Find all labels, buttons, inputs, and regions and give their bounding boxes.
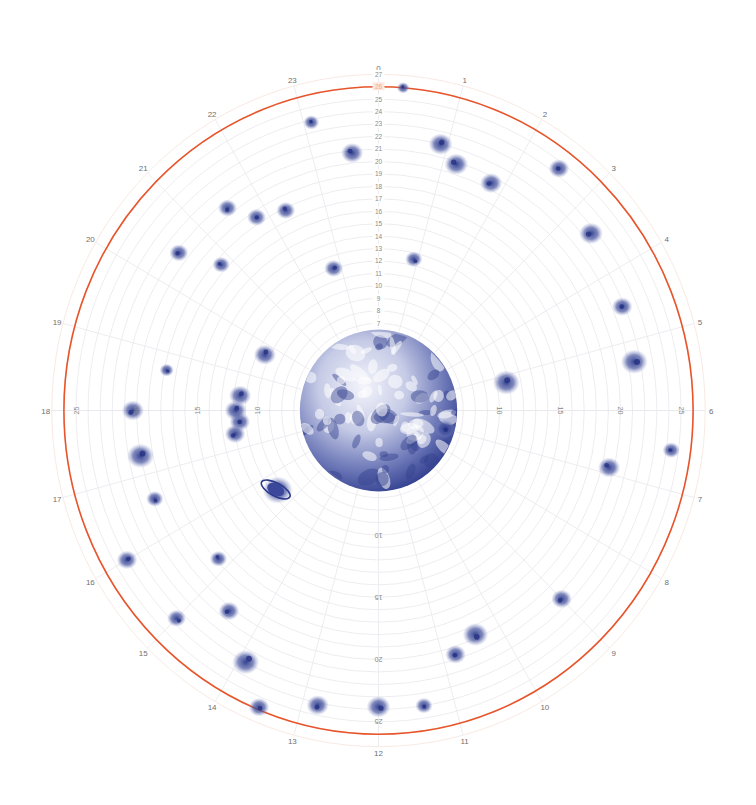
data-point — [167, 610, 186, 627]
data-point — [341, 143, 363, 163]
grid-spoke — [456, 432, 694, 498]
data-point — [621, 349, 648, 373]
data-point — [249, 698, 270, 717]
grid-spoke — [399, 490, 463, 735]
data-point — [303, 115, 319, 129]
radial-label-right: 25 — [678, 407, 685, 415]
radial-label: 23 — [375, 120, 383, 127]
radial-label: 27 — [375, 71, 383, 78]
hour-label: 21 — [139, 164, 148, 173]
radial-label: 13 — [375, 245, 383, 252]
radial-label-left: 20 — [133, 407, 140, 415]
grid-spoke — [456, 323, 694, 389]
data-point — [254, 345, 276, 365]
radial-label: 11 — [375, 270, 382, 277]
hour-label: 4 — [664, 235, 669, 244]
data-point — [169, 244, 188, 261]
radial-label: 22 — [375, 133, 383, 140]
data-point — [276, 202, 295, 219]
data-point — [405, 251, 423, 267]
radial-label-right: 10 — [496, 407, 503, 415]
hour-label: 7 — [698, 495, 703, 504]
hour-label: 23 — [288, 76, 297, 85]
hour-label: 8 — [664, 578, 669, 587]
data-point — [549, 159, 570, 178]
data-point — [218, 199, 237, 216]
data-point — [324, 260, 343, 277]
hour-label: 9 — [612, 649, 617, 658]
data-point — [210, 551, 228, 567]
data-point — [127, 444, 154, 468]
radial-label: 26 — [375, 83, 383, 90]
hour-label: 1 — [462, 76, 467, 85]
radial-label: 16 — [375, 208, 383, 215]
hour-label: 10 — [540, 703, 549, 712]
radial-label: 20 — [375, 158, 383, 165]
data-point — [662, 442, 680, 458]
radial-label-right: 15 — [557, 407, 564, 415]
hour-label: 18 — [41, 407, 50, 416]
data-point — [225, 425, 246, 444]
hour-label: 20 — [86, 235, 95, 244]
hour-label: 22 — [208, 110, 217, 119]
radial-label: 21 — [375, 145, 383, 152]
data-point — [445, 645, 466, 664]
grid-spoke — [294, 490, 358, 735]
radial-label-left: 10 — [254, 407, 261, 415]
hour-label: 19 — [53, 318, 62, 327]
data-point — [117, 551, 138, 570]
radial-label: 8 — [377, 307, 381, 314]
radial-label: 12 — [375, 257, 383, 264]
grid-spoke — [399, 86, 463, 331]
data-point — [247, 209, 266, 226]
hour-label: 12 — [374, 749, 383, 758]
data-point — [463, 623, 489, 646]
data-point — [429, 133, 453, 155]
radial-label-left: 15 — [194, 407, 201, 415]
data-point — [493, 370, 520, 394]
radial-label-bottom: 15 — [375, 594, 383, 601]
radial-label: 24 — [375, 108, 383, 115]
radial-label: 25 — [375, 96, 383, 103]
radial-label-right: 20 — [617, 407, 624, 415]
radial-label: 7 — [377, 320, 381, 327]
radial-label: 19 — [375, 170, 383, 177]
data-point — [444, 153, 468, 175]
radial-label-bottom: 25 — [375, 718, 383, 725]
hour-label: 13 — [288, 737, 297, 746]
data-point — [232, 650, 259, 674]
data-point — [397, 82, 410, 94]
radial-label: 18 — [375, 183, 383, 190]
polar-chart: 0123456789101112131415161718192021222378… — [0, 0, 756, 805]
hour-label: 16 — [86, 578, 95, 587]
data-point — [551, 590, 572, 609]
radial-label-bottom: 20 — [375, 656, 383, 663]
radial-label-bottom: 10 — [375, 532, 383, 539]
hour-label: 2 — [543, 110, 548, 119]
radial-label: 9 — [377, 295, 381, 302]
radial-label-left: 25 — [73, 407, 80, 415]
data-point — [480, 173, 502, 193]
data-point — [229, 385, 251, 405]
radial-label: 17 — [375, 195, 383, 202]
data-point — [146, 491, 164, 507]
radial-label: 15 — [375, 220, 383, 227]
data-point — [579, 223, 603, 245]
hour-label: 14 — [208, 703, 217, 712]
radial-label: 10 — [375, 282, 383, 289]
data-point — [160, 364, 174, 377]
data-point — [219, 602, 240, 621]
data-point — [367, 696, 391, 718]
data-point — [612, 297, 633, 316]
data-point — [415, 698, 433, 714]
hour-label: 11 — [460, 737, 469, 746]
data-point — [306, 695, 328, 715]
hour-label: 3 — [612, 164, 617, 173]
hour-label: 5 — [698, 318, 703, 327]
hour-label: 15 — [139, 649, 148, 658]
hour-label: 17 — [53, 495, 62, 504]
data-point — [212, 257, 230, 273]
radial-label-right: 5 — [436, 409, 443, 413]
data-point — [598, 457, 620, 477]
radial-label: 14 — [375, 233, 383, 240]
